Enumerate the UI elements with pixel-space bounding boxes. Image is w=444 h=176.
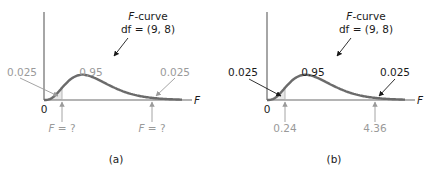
df-label: df = (9, 8) xyxy=(339,23,393,35)
f-distribution-figure: F-curve df = (9, 8) 0.025 0.95 0.025 0 F… xyxy=(0,0,444,176)
left-critical-label: 0.24 xyxy=(273,122,297,134)
left-tail-area-label: 0.025 xyxy=(7,66,37,78)
f-curve xyxy=(267,75,405,100)
left-critical-label-rest: 0.24 xyxy=(273,122,297,134)
left-critical-label: F = ? xyxy=(48,122,75,134)
x-axis-label: F xyxy=(194,94,201,106)
right-critical-label-rest: = ? xyxy=(145,122,166,134)
right-tail-pointer-arrow xyxy=(156,78,175,96)
center-area-label: 0.95 xyxy=(79,66,102,78)
panel-caption: (b) xyxy=(327,153,342,165)
curve-pointer-arrow xyxy=(337,38,351,56)
curve-title: F-curve xyxy=(128,10,167,22)
right-critical-label: 4.36 xyxy=(363,122,387,134)
right-tail-pointer-arrow xyxy=(379,79,395,96)
x-axis-label: F xyxy=(417,94,424,106)
right-critical-label-rest: 4.36 xyxy=(363,122,387,134)
curve-pointer-arrow xyxy=(114,38,128,56)
curve-title: F-curve xyxy=(346,10,385,22)
df-label: df = (9, 8) xyxy=(121,23,175,35)
left-tail-pointer-arrow xyxy=(249,79,281,96)
right-tail-area-label: 0.025 xyxy=(380,66,410,78)
right-critical-label: F = ? xyxy=(138,122,165,134)
panel-b: F-curve df = (9, 8) 0.025 0.95 0.025 0 F… xyxy=(228,10,424,165)
origin-label: 0 xyxy=(41,103,48,115)
origin-label: 0 xyxy=(264,103,271,115)
left-critical-label-rest: = ? xyxy=(55,122,76,134)
left-tail-pointer-arrow xyxy=(20,78,58,96)
right-tail-area-label: 0.025 xyxy=(160,66,190,78)
curve-title-rest: -curve xyxy=(352,10,385,22)
center-area-label: 0.95 xyxy=(301,66,324,78)
curve-title-rest: -curve xyxy=(134,10,167,22)
f-curve xyxy=(44,75,182,100)
panel-caption: (a) xyxy=(109,153,124,165)
panel-a: F-curve df = (9, 8) 0.025 0.95 0.025 0 F… xyxy=(7,10,201,165)
left-tail-area-label: 0.025 xyxy=(228,66,258,78)
